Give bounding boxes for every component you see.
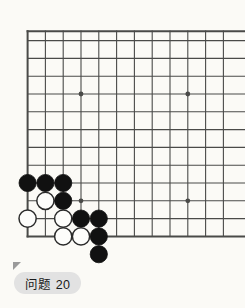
stone-black[interactable]: [55, 174, 72, 191]
stones-layer[interactable]: [19, 174, 107, 262]
stone-black[interactable]: [55, 192, 72, 209]
stone-black[interactable]: [90, 228, 107, 245]
star-point: [185, 92, 190, 97]
stone-white[interactable]: [19, 210, 36, 227]
stone-white[interactable]: [55, 228, 72, 245]
stone-white[interactable]: [37, 192, 54, 209]
problem-label-chip: 问题 20: [14, 272, 81, 294]
go-board-canvas[interactable]: [0, 0, 245, 270]
stone-black[interactable]: [90, 210, 107, 227]
go-board[interactable]: [0, 0, 245, 270]
go-problem-diagram: 问题 20: [0, 0, 245, 308]
stone-black[interactable]: [72, 210, 89, 227]
corner-triangle-icon: [13, 262, 21, 270]
star-point: [79, 198, 84, 203]
problem-label-text: 问题 20: [25, 274, 70, 293]
stone-black[interactable]: [90, 246, 107, 263]
stone-white[interactable]: [55, 210, 72, 227]
stone-white[interactable]: [72, 228, 89, 245]
stone-black[interactable]: [37, 174, 54, 191]
star-point: [185, 198, 190, 203]
star-point: [79, 92, 84, 97]
stone-black[interactable]: [19, 174, 36, 191]
